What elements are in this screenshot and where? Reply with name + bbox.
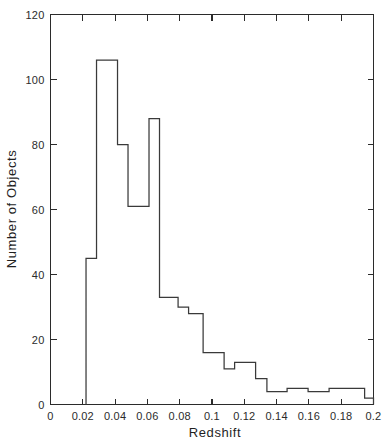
x-tick-label: 0.16: [298, 410, 320, 422]
y-tick-label: 80: [32, 139, 45, 151]
x-tick-label: 0.18: [330, 410, 352, 422]
y-axis-tick-labels: 020406080100120: [26, 9, 45, 411]
x-tick-label: 0.02: [72, 410, 94, 422]
x-tick-label: 0.1: [204, 410, 220, 422]
x-tick-label: 0.12: [233, 410, 255, 422]
x-tick-label: 0: [47, 410, 53, 422]
x-tick-label: 0.14: [265, 410, 287, 422]
histogram-outline: [86, 60, 373, 405]
y-tick-label: 120: [26, 9, 45, 21]
x-axis-tick-labels: 00.020.040.060.080.10.120.140.160.180.2: [47, 410, 381, 422]
y-axis-title: Number of Objects: [4, 150, 19, 269]
x-tick-label: 0.2: [366, 410, 382, 422]
y-tick-label: 40: [32, 269, 45, 281]
y-tick-label: 100: [26, 74, 45, 86]
x-axis-ticks: [51, 15, 374, 405]
x-tick-label: 0.06: [136, 410, 158, 422]
x-tick-label: 0.08: [169, 410, 191, 422]
axis-box: [51, 15, 374, 405]
y-tick-label: 20: [32, 334, 45, 346]
y-tick-label: 0: [38, 399, 44, 411]
histogram-step-line: [86, 60, 373, 405]
x-tick-label: 0.04: [104, 410, 126, 422]
histogram-figure: 00.020.040.060.080.10.120.140.160.180.2 …: [0, 0, 389, 443]
plot-frame: [51, 15, 374, 405]
redshift-histogram-plot: 00.020.040.060.080.10.120.140.160.180.2 …: [0, 0, 389, 443]
y-axis-ticks: [51, 15, 374, 405]
x-axis-title: Redshift: [189, 425, 242, 440]
y-tick-label: 60: [32, 204, 45, 216]
